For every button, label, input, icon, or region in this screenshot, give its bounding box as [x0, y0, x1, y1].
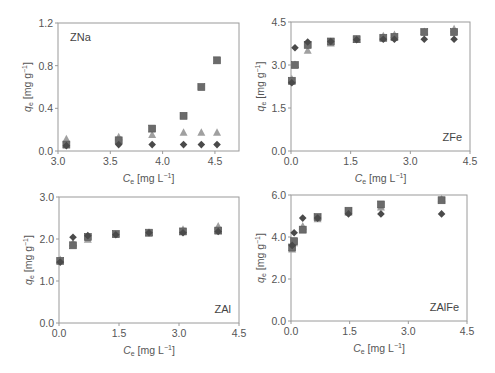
marker-diamond — [299, 214, 307, 222]
marker-diamond — [420, 35, 428, 43]
marker-diamond — [69, 234, 77, 242]
x-tick-label: 3.5 — [103, 155, 118, 167]
marker-square — [291, 62, 298, 69]
y-axis-label: qe [mg g−1] — [254, 62, 267, 112]
x-tick-label: 4.5 — [208, 155, 223, 167]
y-tick-label: 1.5 — [271, 102, 286, 114]
y-tick-label: 4.5 — [271, 16, 286, 28]
marker-diamond — [377, 210, 385, 218]
marker-diamond — [438, 210, 446, 218]
marker-square — [438, 197, 445, 204]
panel-zal: 0.01.02.03.00.01.53.04.5Ce [mg L−1]qe [m… — [22, 191, 246, 357]
panel-zna: 0.00.40.81.23.03.54.04.5Ce [mg L−1]qe [m… — [21, 17, 239, 185]
x-tick-label: 1.5 — [343, 155, 358, 167]
x-tick-label: 0.0 — [52, 327, 67, 339]
marker-square — [149, 125, 156, 132]
x-axis-label: Ce [mg L−1] — [353, 342, 405, 355]
x-tick-label: 3.0 — [172, 327, 187, 339]
x-tick-label: 3.0 — [403, 155, 418, 167]
marker-square — [299, 226, 306, 233]
plot-frame — [59, 197, 239, 323]
y-axis-label: qe [mg g−1] — [254, 233, 267, 283]
y-axis-label: qe [mg g−1] — [21, 62, 34, 112]
y-tick-label: 6.0 — [271, 189, 286, 201]
y-tick-label: 1.0 — [39, 275, 54, 287]
panel-annotation: ZNa — [70, 31, 92, 43]
marker-triangle — [180, 128, 188, 136]
y-tick-label: 2.0 — [39, 233, 54, 245]
x-tick-label: 1.5 — [342, 325, 357, 337]
x-tick-label: 3.0 — [401, 325, 416, 337]
marker-square — [198, 84, 205, 91]
y-tick-label: 4.0 — [271, 231, 286, 243]
marker-square — [214, 57, 221, 64]
y-tick-label: 1.2 — [38, 17, 53, 29]
x-axis-label: Ce [mg L−1] — [123, 344, 175, 357]
y-tick-label: 0.4 — [38, 102, 53, 114]
marker-square — [421, 29, 428, 36]
x-tick-label: 3.0 — [51, 155, 66, 167]
marker-triangle — [213, 128, 221, 136]
x-tick-label: 0.0 — [284, 325, 299, 337]
marker-triangle — [197, 128, 205, 136]
marker-square — [377, 201, 384, 208]
marker-diamond — [213, 141, 221, 149]
x-tick-label: 0.0 — [284, 155, 299, 167]
x-axis-label: Ce [mg L−1] — [123, 172, 175, 185]
x-tick-label: 4.5 — [460, 325, 475, 337]
marker-square — [451, 29, 458, 36]
y-tick-label: 2.0 — [271, 273, 286, 285]
x-tick-label: 1.5 — [112, 327, 127, 339]
marker-square — [180, 112, 187, 119]
marker-diamond — [148, 141, 156, 149]
panel-annotation: ZAl — [215, 303, 232, 315]
y-tick-label: 0.8 — [38, 60, 53, 72]
x-tick-label: 4.5 — [232, 327, 247, 339]
panel-annotation: ZAlFe — [430, 301, 459, 313]
marker-diamond — [450, 35, 458, 43]
y-axis-label: qe [mg g−1] — [22, 235, 35, 285]
x-axis-label: Ce [mg L−1] — [355, 172, 407, 185]
marker-diamond — [291, 44, 299, 52]
y-tick-label: 3.0 — [271, 59, 286, 71]
x-tick-label: 4.0 — [155, 155, 170, 167]
panel-annotation: ZFe — [442, 131, 462, 143]
panel-zfe: 0.01.53.04.50.01.53.04.5Ce [mg L−1]qe [m… — [254, 16, 477, 185]
panel-zalfe: 0.02.04.06.00.01.53.04.5Ce [mg L−1]qe [m… — [254, 189, 474, 355]
marker-square — [70, 242, 77, 249]
x-tick-label: 4.5 — [463, 155, 478, 167]
marker-diamond — [180, 141, 188, 149]
marker-diamond — [198, 141, 206, 149]
figure-four-panel-isotherms: 0.00.40.81.23.03.54.04.5Ce [mg L−1]qe [m… — [0, 0, 495, 373]
y-tick-label: 3.0 — [39, 191, 54, 203]
